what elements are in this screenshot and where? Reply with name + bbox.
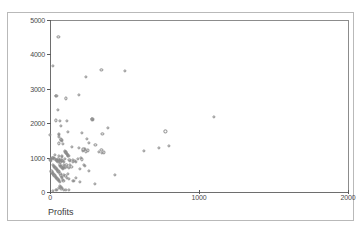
x-tick-label: 0 bbox=[48, 194, 52, 202]
x-tick-label: 2000 bbox=[341, 194, 356, 202]
y-tick-mark bbox=[47, 123, 51, 124]
plot-frame-right bbox=[348, 20, 349, 193]
y-tick-mark bbox=[47, 89, 51, 90]
y-tick-label: 3000 bbox=[0, 85, 45, 92]
x-axis-title: Profits bbox=[48, 207, 74, 217]
y-tick-mark bbox=[47, 54, 51, 55]
plot-frame-left-axis bbox=[50, 20, 51, 193]
x-tick-label: 1000 bbox=[192, 194, 207, 202]
y-tick-label: 5000 bbox=[0, 17, 45, 24]
y-tick-mark bbox=[47, 20, 51, 21]
scatter-plot-figure: 010002000300040005000 010002000 Total ye… bbox=[0, 0, 362, 229]
y-tick-label: 4000 bbox=[0, 51, 45, 58]
y-tick-label: 1000 bbox=[0, 154, 45, 161]
y-tick-label: 0 bbox=[0, 189, 45, 196]
plot-frame-top bbox=[50, 20, 349, 21]
y-tick-label: 2000 bbox=[0, 120, 45, 127]
